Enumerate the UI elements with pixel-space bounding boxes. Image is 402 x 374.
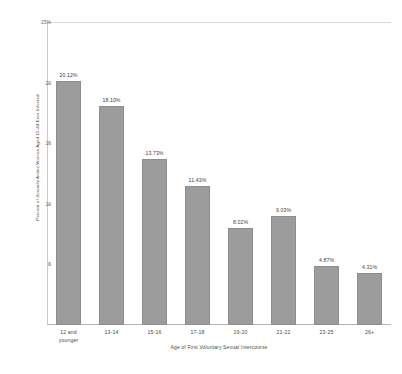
- y-tick-label: 5: [26, 261, 51, 267]
- bar-value-label: 8.02%: [211, 219, 271, 225]
- bar-column[interactable]: [142, 159, 166, 325]
- bar-column[interactable]: [357, 273, 381, 325]
- bar-column[interactable]: [56, 81, 80, 325]
- bar[interactable]: [99, 106, 123, 325]
- bar-value-label: 9.03%: [254, 207, 314, 213]
- bar-value-label: 13.73%: [125, 150, 185, 156]
- y-tick-label: 25%: [26, 19, 51, 25]
- x-axis-title: Age of First Voluntary Sexual Intercours…: [47, 344, 391, 350]
- bar-value-label: 4.87%: [297, 257, 357, 263]
- y-tick-label: 10: [26, 201, 51, 207]
- plot-top-border: [47, 22, 391, 23]
- bar-value-label: 18.10%: [82, 97, 142, 103]
- bar-column[interactable]: [185, 186, 209, 325]
- bar-column[interactable]: [314, 266, 338, 325]
- bar[interactable]: [357, 273, 381, 325]
- y-axis-title: Percent of Sexually Active Women Aged 15…: [35, 58, 40, 258]
- bar-value-label: 20.12%: [39, 72, 99, 78]
- bar-column[interactable]: [99, 106, 123, 325]
- y-tick-label: 20: [26, 80, 51, 86]
- bar-column[interactable]: [228, 228, 252, 325]
- x-tick-label: 26+: [340, 329, 400, 337]
- bar-value-label: 11.43%: [168, 177, 228, 183]
- bar-chart-figure: Percent of Sexually Active Women Aged 15…: [0, 0, 402, 374]
- y-axis-spine: [47, 22, 48, 325]
- y-tick-label: 15: [26, 140, 51, 146]
- bar[interactable]: [56, 81, 80, 325]
- bar[interactable]: [314, 266, 338, 325]
- bar[interactable]: [228, 228, 252, 325]
- bar-column[interactable]: [271, 216, 295, 325]
- bar-value-label: 4.31%: [340, 264, 400, 270]
- bar[interactable]: [185, 186, 209, 325]
- bar[interactable]: [142, 159, 166, 325]
- bar[interactable]: [271, 216, 295, 325]
